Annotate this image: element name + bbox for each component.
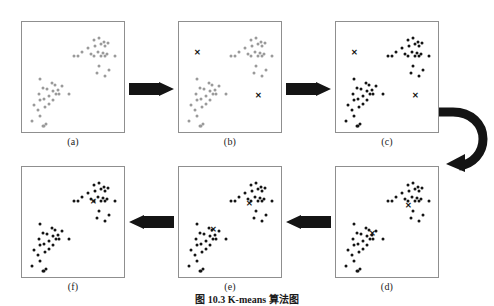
centroid-marker: ✕ — [255, 92, 262, 100]
data-point — [39, 99, 42, 102]
arrow-e-to-f-icon — [129, 215, 174, 229]
centroid-marker: ✕ — [246, 200, 253, 208]
data-point — [261, 219, 264, 222]
data-point — [52, 99, 55, 102]
data-point — [56, 88, 59, 91]
data-point — [406, 184, 409, 187]
data-point — [203, 88, 206, 91]
data-point — [60, 230, 63, 233]
data-point — [265, 69, 268, 72]
centroid-marker: ✕ — [405, 202, 412, 210]
data-point — [417, 185, 420, 188]
data-point — [217, 85, 220, 88]
data-point — [108, 69, 111, 72]
data-point — [211, 83, 214, 86]
data-point — [37, 92, 40, 95]
data-point — [190, 249, 193, 252]
data-point — [400, 47, 403, 50]
data-point — [46, 88, 49, 91]
data-point — [418, 44, 421, 47]
data-point — [201, 251, 204, 254]
data-point — [73, 199, 76, 202]
data-point — [108, 214, 111, 217]
data-point — [196, 77, 199, 80]
data-point — [194, 92, 197, 95]
data-point — [215, 92, 218, 95]
data-point — [204, 94, 207, 97]
data-point — [249, 39, 252, 42]
centroid-marker: ✕ — [412, 92, 419, 100]
data-point — [270, 54, 273, 57]
data-point — [45, 123, 48, 126]
data-point — [39, 222, 42, 225]
data-point — [203, 233, 206, 236]
data-point — [427, 199, 430, 202]
data-point — [387, 54, 390, 57]
data-point — [104, 189, 107, 192]
data-point — [412, 36, 415, 39]
data-point — [194, 237, 197, 240]
data-point — [411, 50, 414, 53]
data-point — [350, 109, 353, 112]
data-point — [261, 44, 264, 47]
data-point — [418, 219, 421, 222]
data-point — [50, 227, 53, 230]
data-point — [39, 115, 42, 118]
data-point — [234, 55, 237, 58]
data-point — [257, 42, 260, 45]
data-point — [98, 36, 101, 39]
data-point — [252, 71, 255, 74]
data-point — [113, 54, 116, 57]
scatter-panel-e: ✕✕ — [178, 166, 282, 278]
data-point — [407, 54, 410, 57]
data-point — [39, 77, 42, 80]
data-point — [418, 74, 421, 77]
data-point — [30, 265, 33, 268]
data-point — [92, 39, 95, 42]
data-point — [193, 109, 196, 112]
data-point — [250, 45, 253, 48]
data-point — [374, 85, 377, 88]
data-point — [254, 195, 257, 198]
data-point — [364, 227, 367, 230]
data-point — [54, 228, 57, 231]
data-point — [42, 86, 45, 89]
data-point — [230, 199, 233, 202]
data-point — [107, 186, 110, 189]
centroid-marker: ✕ — [369, 230, 376, 238]
data-point — [353, 260, 356, 263]
data-point — [225, 238, 228, 241]
data-point — [190, 104, 193, 107]
data-point — [196, 115, 199, 118]
data-point — [225, 93, 228, 96]
data-point — [44, 106, 47, 109]
data-point — [359, 268, 362, 271]
data-point — [48, 102, 51, 105]
data-point — [246, 53, 249, 56]
data-point — [42, 98, 45, 101]
data-point — [92, 184, 95, 187]
data-point — [45, 268, 48, 271]
data-point — [187, 265, 190, 268]
data-point — [391, 55, 394, 58]
data-point — [42, 231, 45, 234]
data-point — [89, 53, 92, 56]
scatter-panel-d: ✕✕ — [335, 166, 439, 278]
data-point — [417, 40, 420, 43]
data-point — [347, 104, 350, 107]
data-point — [351, 92, 354, 95]
arrow-b-to-c-icon — [286, 82, 331, 96]
data-point — [403, 53, 406, 56]
arrow-d-to-e-icon — [286, 215, 331, 229]
data-point — [230, 54, 233, 57]
arrow-c-to-d-icon — [437, 106, 489, 172]
data-point — [362, 102, 365, 105]
scatter-panel-f: ✕ — [21, 166, 125, 278]
panel-label-a: (a) — [21, 136, 125, 147]
data-point — [107, 41, 110, 44]
data-point — [255, 64, 258, 67]
data-point — [254, 50, 257, 53]
data-point — [196, 99, 199, 102]
data-point — [196, 244, 199, 247]
